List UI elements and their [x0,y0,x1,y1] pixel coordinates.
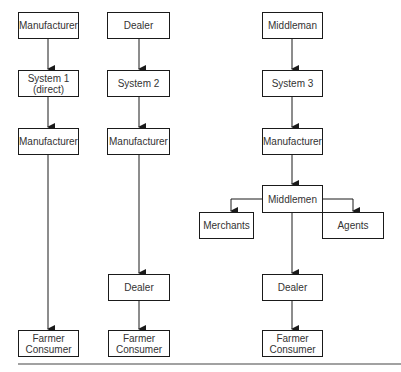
node-c3-dealer: Dealer [262,274,323,301]
node-c3-agents: Agents [322,212,384,239]
node-c1-manufacturer-top: Manufacturer [18,12,79,39]
node-system-2: System 2 [107,70,170,97]
node-c1-manufacturer: Manufacturer [18,128,79,155]
node-c1-farmer-consumer: Farmer Consumer [18,330,79,357]
arrow-to-agents [322,199,353,211]
distribution-systems-diagram: Manufacturer System 1 (direct) Manufactu… [0,0,401,372]
node-c3-merchants: Merchants [199,212,254,239]
node-c2-manufacturer: Manufacturer [107,128,170,155]
arrow-to-merchants [231,199,262,211]
node-c2-farmer-consumer: Farmer Consumer [108,330,170,357]
node-c3-manufacturer: Manufacturer [262,128,323,155]
node-c2-dealer-top: Dealer [107,12,170,39]
node-c3-middlemen: Middlemen [262,185,323,213]
node-system-3: System 3 [262,70,323,97]
node-system-1: System 1 (direct) [18,70,79,97]
node-c2-dealer: Dealer [108,274,170,301]
connector-lines [0,0,401,372]
node-c3-middleman: Middleman [262,12,323,39]
node-c3-farmer-consumer: Farmer Consumer [262,330,323,357]
